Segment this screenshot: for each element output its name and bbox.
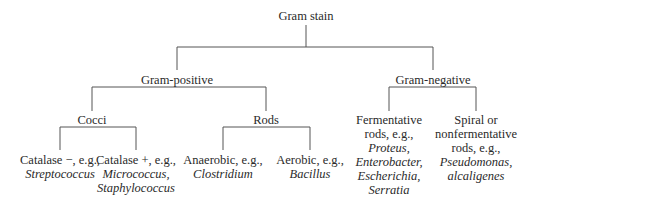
- node-label-line: Spiral or: [435, 113, 517, 127]
- node-catalase-negative: Catalase −, e.g., Streptococcus: [20, 153, 100, 181]
- node-label: Gram-positive: [141, 73, 213, 87]
- node-fermentative-rods: Fermentative rods, e.g., Proteus, Entero…: [355, 113, 422, 197]
- node-label: Cocci: [77, 113, 106, 127]
- node-label: Anaerobic, e.g.,: [183, 153, 262, 167]
- node-label: Aerobic, e.g.,: [276, 153, 344, 167]
- node-label: Gram stain: [278, 9, 333, 23]
- node-label-line: rods, e.g.,: [355, 127, 422, 141]
- node-rods: Rods: [253, 113, 279, 127]
- example-organism: Streptococcus: [20, 167, 100, 181]
- example-organism: Enterobacter,: [355, 155, 422, 169]
- example-organism: Proteus,: [355, 141, 422, 155]
- node-label: Rods: [253, 113, 279, 127]
- example-organism: Staphylococcus: [96, 181, 176, 195]
- node-label: Catalase −, e.g.,: [20, 153, 100, 167]
- example-organism: Bacillus: [276, 167, 344, 181]
- node-label: Gram-negative: [396, 73, 471, 87]
- example-organism: Pseudomonas,: [435, 155, 517, 169]
- node-catalase-positive: Catalase +, e.g., Micrococcus, Staphyloc…: [96, 153, 176, 195]
- node-label-line: nonfermentative: [435, 127, 517, 141]
- node-label: Catalase +, e.g.,: [96, 153, 176, 167]
- example-organism: Serratia: [355, 183, 422, 197]
- node-cocci: Cocci: [77, 113, 106, 127]
- node-gram-negative: Gram-negative: [396, 73, 471, 87]
- node-gram-positive: Gram-positive: [141, 73, 213, 87]
- example-organism: Escherichia,: [355, 169, 422, 183]
- node-spiral-nonfermentative-rods: Spiral or nonfermentative rods, e.g., Ps…: [435, 113, 517, 183]
- node-aerobic: Aerobic, e.g., Bacillus: [276, 153, 344, 181]
- example-organism: Micrococcus,: [96, 167, 176, 181]
- node-label-line: Fermentative: [355, 113, 422, 127]
- example-organism: alcaligenes: [435, 169, 517, 183]
- node-label-line: rods, e.g.,: [435, 141, 517, 155]
- example-organism: Clostridium: [183, 167, 262, 181]
- node-gram-stain: Gram stain: [278, 9, 333, 23]
- node-anaerobic: Anaerobic, e.g., Clostridium: [183, 153, 262, 181]
